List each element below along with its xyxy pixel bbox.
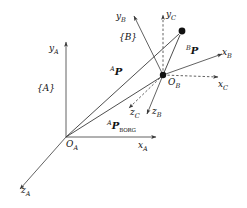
frame-label-B: {B} (119, 33, 137, 42)
axis-label-x-B: xB (222, 48, 232, 59)
axis-label-z-B: zB (152, 107, 162, 118)
axis-z-C-line (129, 75, 163, 108)
origin-label-O-B: OB (168, 78, 180, 89)
axis-z-A-line (20, 137, 66, 189)
axis-y-B-line (134, 16, 163, 75)
axis-x-B-line (163, 54, 222, 75)
axis-label-x-C: xC (218, 80, 228, 91)
point-P-marker (179, 28, 186, 35)
axis-label-y-B: yB (116, 12, 126, 23)
vector-label-A-P: AP (110, 66, 122, 77)
point-O-B-marker (160, 72, 166, 78)
frame-label-A: {A} (37, 84, 55, 93)
axis-label-z-A: zA (21, 186, 30, 197)
axis-label-y-C: yC (166, 10, 176, 21)
axis-label-y-A: yA (49, 44, 59, 55)
vector-label-A-P-BORG: APBORG (107, 120, 136, 134)
coordinate-frame-diagram: yA xA zA yB xB zB yC xC zC OA OB {A} {B}… (0, 0, 247, 208)
vector-label-B-P: BP (186, 45, 198, 56)
axis-label-z-C: zC (130, 108, 140, 119)
axis-label-x-A: xA (138, 141, 148, 152)
origin-label-O-A: OA (66, 140, 78, 151)
